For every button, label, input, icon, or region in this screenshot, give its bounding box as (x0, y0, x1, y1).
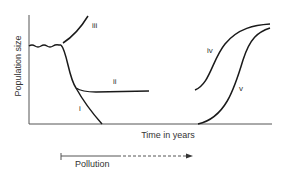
decline-segment (61, 45, 76, 88)
x-axis-label: Time in years (141, 130, 195, 140)
population-diagram: Population size Time in years iii ii i i… (0, 0, 286, 176)
initial-plateau (29, 45, 61, 47)
arrowhead-icon (186, 154, 193, 159)
curve-iii-label: iii (92, 21, 98, 30)
curve-iv-label: iv (207, 46, 213, 55)
pollution-label: Pollution (75, 159, 110, 169)
curve-iii (63, 16, 88, 43)
curve-i-label: i (79, 104, 81, 113)
curve-v-label: v (239, 84, 243, 93)
y-axis-label: Population size (13, 35, 23, 96)
curve-ii-label: ii (113, 77, 117, 86)
curve-ii (76, 88, 149, 92)
